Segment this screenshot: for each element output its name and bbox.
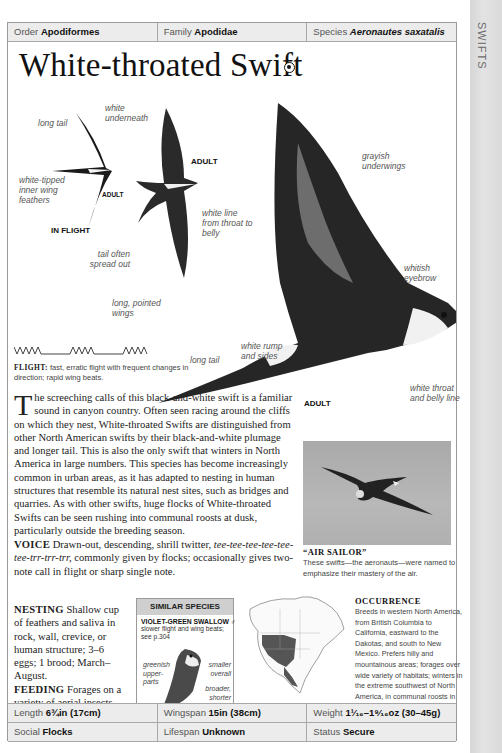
label-white-underneath: white underneath <box>105 103 155 123</box>
label-white-tipped: white-tipped inner wing feathers <box>19 175 79 205</box>
taxonomy-row: Order Apodiformes Family Apodidae Specie… <box>8 23 456 42</box>
nesting-section: NESTING Shallow cup of feathers and sali… <box>14 603 126 683</box>
label-white-throat: white throat and belly line <box>410 383 462 403</box>
lifespan-cell: Lifespan Unknown <box>158 723 308 741</box>
wingspan-cell: Wingspan 15in (38cm) <box>158 704 308 722</box>
species-value: Aeronautes saxatalis <box>350 26 445 37</box>
length-cell: Length 6¾in (17cm) <box>8 704 158 722</box>
voice-section: VOICE Drawn-out, descending, shrill twit… <box>14 538 296 578</box>
occurrence-text: Breeds in western North America, from Br… <box>355 607 465 713</box>
label-whitish-eyebrow: whitish eyebrow <box>404 263 448 283</box>
range-map <box>240 589 352 701</box>
order-value: Apodiformes <box>41 26 100 37</box>
adult-top-swift-illustration <box>136 108 198 278</box>
label-smaller: smaller overall <box>197 661 231 678</box>
age-label-adult-top: ADULT <box>191 157 218 166</box>
similar-species-heading: SIMILAR SPECIES <box>137 599 233 615</box>
similar-species-name[interactable]: VIOLET-GREEN SWALLOW ♂ <box>137 615 233 625</box>
air-sailor-photo <box>303 441 451 545</box>
flight-pattern-icon <box>14 343 174 357</box>
species-description: The screeching calls of this black-and-w… <box>14 391 296 537</box>
label-greenish: greenish upper-parts <box>143 661 177 687</box>
section-tab[interactable]: SWIFTS <box>470 0 502 753</box>
bird-illustrations <box>8 83 456 443</box>
label-white-line: white line from throat to belly <box>202 208 254 238</box>
label-long-tail-main: long tail <box>190 355 219 365</box>
status-cell: Status Secure <box>307 723 456 741</box>
nesting-feeding-column: NESTING Shallow cup of feathers and sali… <box>14 603 126 709</box>
social-cell: Social Flocks <box>8 723 158 741</box>
family-value: Apodidae <box>194 26 237 37</box>
section-tab-label: SWIFTS <box>476 22 488 70</box>
order-cell: Order Apodiformes <box>8 23 158 41</box>
occurrence-title: OCCURRENCE <box>355 596 421 606</box>
label-pointed-wings: long, pointed wings <box>112 298 172 318</box>
similar-species-box: SIMILAR SPECIES VIOLET-GREEN SWALLOW ♂ s… <box>136 598 234 715</box>
similar-species-desc: slower flight and wing beats; see p.304 <box>137 625 233 641</box>
family-cell: Family Apodidae <box>158 23 308 41</box>
in-flight-caption: IN FLIGHT <box>51 226 90 235</box>
stats-table: Length 6¾in (17cm) Wingspan 15in (38cm) … <box>8 703 456 742</box>
stats-row-1: Length 6¾in (17cm) Wingspan 15in (38cm) … <box>8 704 456 723</box>
species-cell: Species Aeronautes saxatalis <box>307 23 456 41</box>
swift-flying-photo <box>303 441 451 545</box>
drop-cap: T <box>14 393 32 417</box>
flight-description: FLIGHT: fast, erratic flight with freque… <box>14 363 189 383</box>
label-tail-spread: tail often spread out <box>88 249 130 269</box>
speaker-icon[interactable] <box>284 62 295 73</box>
weight-cell: Weight 1¹⁄₁₆–1⁹⁄₁₆oz (30–45g) <box>307 704 456 722</box>
photo-caption-text: These swifts—the aeronauts—were named to… <box>303 558 461 579</box>
in-flight-swift-illustration <box>52 113 112 228</box>
page-title: White-throated Swift <box>19 47 303 84</box>
age-label-adult-main: ADULT <box>304 399 331 408</box>
age-label-in-flight: ADULT <box>102 191 124 198</box>
label-long-tail-small: long tail <box>38 118 67 128</box>
label-grayish-underwings: grayish underwings <box>362 151 422 171</box>
label-white-rump: white rump and sides <box>241 341 291 361</box>
stats-row-2: Social Flocks Lifespan Unknown Status Se… <box>8 723 456 742</box>
species-page: Order Apodiformes Family Apodidae Specie… <box>7 22 457 741</box>
photo-caption-title: “AIR SAILOR” <box>303 547 367 557</box>
